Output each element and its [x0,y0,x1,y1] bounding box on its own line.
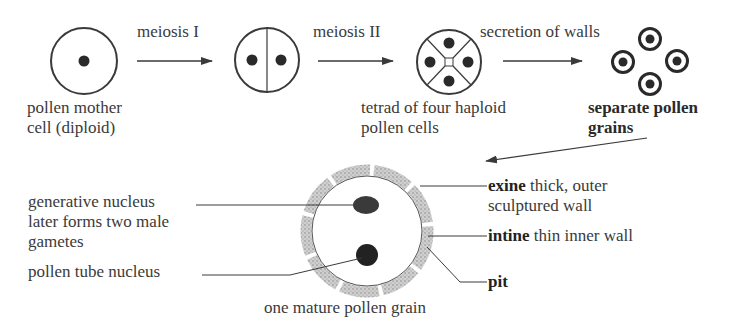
separate-pollen-grains [613,29,688,95]
label-intine: intine thin inner wall [488,226,633,246]
arrow-to-mature-grain [486,138,647,161]
label-separate-grains: separate pollengrains [588,98,698,138]
label-secretion: secretion of walls [480,22,600,42]
label-exine: exine thick, outer sculptured wall [488,176,607,216]
pollen-mother-cell [51,28,117,94]
label-mother-cell: pollen mothercell (diploid) [27,98,122,138]
label-tetrad: tetrad of four haploidpollen cells [361,98,506,138]
mature-pollen-grain [306,170,428,292]
tube-nucleus-shape [356,244,378,266]
dyad-cell [235,28,299,92]
label-meiosis-2: meiosis II [313,22,381,42]
generative-nucleus-shape [353,196,379,214]
tetrad-cell [417,30,481,94]
caption-mature-grain: one mature pollen grain [264,298,426,318]
label-tube-nucleus: pollen tube nucleus [28,262,160,282]
label-meiosis-1: meiosis I [137,22,199,42]
pollen-development-diagram [0,0,741,332]
leader-lines [196,186,487,282]
label-pit: pit [488,272,508,292]
label-generative-nucleus: generative nucleus later forms two male … [28,192,169,252]
